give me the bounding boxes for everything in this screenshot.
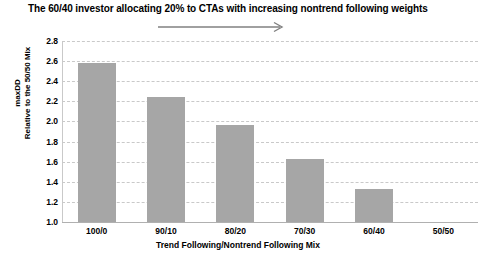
gridline bbox=[62, 162, 478, 163]
x-axis-title: Trend Following/Nontrend Following Mix bbox=[62, 240, 414, 250]
y-tick-label: 2.4 bbox=[32, 76, 58, 86]
gridline bbox=[62, 101, 478, 102]
y-tick-label: 1.6 bbox=[32, 157, 58, 167]
x-tick-label: 50/50 bbox=[409, 226, 478, 236]
y-tick-label: 2.8 bbox=[32, 36, 58, 46]
x-tick-label: 100/0 bbox=[62, 226, 131, 236]
gridline bbox=[62, 81, 478, 82]
bar-60-40 bbox=[355, 189, 393, 222]
bar-70-30 bbox=[286, 159, 324, 222]
x-tick-label: 70/30 bbox=[270, 226, 339, 236]
bar-100-0 bbox=[78, 63, 116, 222]
y-tick-label: 1.2 bbox=[32, 197, 58, 207]
gridline bbox=[62, 182, 478, 183]
bar-80-20 bbox=[216, 125, 254, 222]
y-tick-label: 2.2 bbox=[32, 96, 58, 106]
y-tick-label: 1.4 bbox=[32, 177, 58, 187]
gridline bbox=[62, 202, 478, 203]
x-axis-line bbox=[62, 222, 478, 223]
y-axis-title-line1: maxDD bbox=[13, 8, 23, 178]
bar-90-10 bbox=[147, 97, 185, 222]
gridline bbox=[62, 142, 478, 143]
y-tick-label: 1.0 bbox=[32, 217, 58, 227]
x-tick-label: 60/40 bbox=[340, 226, 409, 236]
increasing-nontrend-arrow-icon bbox=[158, 20, 288, 34]
y-tick-label: 2.6 bbox=[32, 56, 58, 66]
gridline bbox=[62, 61, 478, 62]
y-tick-label: 2.0 bbox=[32, 116, 58, 126]
gridline bbox=[62, 121, 478, 122]
plot-area bbox=[62, 41, 478, 222]
x-tick-label: 90/10 bbox=[132, 226, 201, 236]
y-axis-ticks: 2.82.62.42.22.01.81.61.41.21.0 bbox=[26, 41, 58, 222]
chart-title: The 60/40 investor allocating 20% to CTA… bbox=[28, 3, 428, 14]
gridline bbox=[62, 41, 478, 42]
y-tick-label: 1.8 bbox=[32, 137, 58, 147]
x-tick-label: 80/20 bbox=[201, 226, 270, 236]
x-axis-ticks: 100/090/1080/2070/3060/4050/50 bbox=[62, 226, 478, 240]
